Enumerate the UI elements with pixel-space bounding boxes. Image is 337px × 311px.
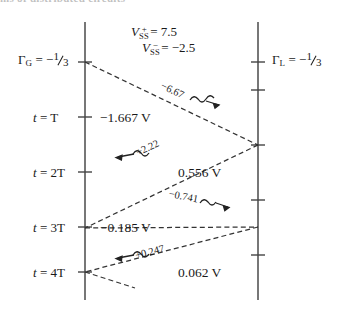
gamma-l-equals: =: [288, 52, 295, 67]
voltage-value-at-3t: −0.185 V: [100, 220, 151, 236]
vss-minus-symbol: V: [142, 40, 150, 55]
time-label-2t-value: 2T: [50, 165, 64, 180]
time-label-t-value: T: [50, 110, 58, 125]
vss-plus-equals: =: [150, 24, 157, 39]
time-label-3t-value: 3T: [50, 220, 64, 235]
wave-arrow-right-3: [200, 200, 229, 211]
voltage-value-at-2t: 0.556 V: [178, 165, 221, 181]
vss-plus-symbol: V: [131, 24, 139, 39]
gamma-g-subscript: G: [26, 58, 33, 68]
wave-segment-5-forward: [85, 272, 135, 288]
wave-segment-2-reverse: [85, 145, 258, 228]
vss-minus-superscript: −: [153, 40, 158, 50]
generator-reflection-coefficient: ΓG = −13: [18, 52, 67, 68]
time-label-t-equals: =: [40, 110, 47, 125]
vss-plus-value: 7.5: [161, 24, 177, 39]
time-label-4t-equals: =: [40, 265, 47, 280]
steady-state-negative: VSS− = −2.5: [142, 40, 195, 57]
time-label-3t-variable: t: [33, 220, 37, 235]
time-label-t-variable: t: [33, 110, 37, 125]
voltage-value-at-t: −1.667 V: [100, 110, 151, 126]
time-label-2t-variable: t: [33, 165, 37, 180]
gamma-l-denominator: 3: [316, 56, 322, 68]
time-label-t: t = T: [33, 110, 58, 126]
time-label-3t: t = 3T: [33, 220, 65, 236]
voltage-value-at-4t: 0.062 V: [178, 265, 221, 281]
vss-minus-value: −2.5: [172, 40, 196, 55]
gamma-l-sign: −: [299, 52, 306, 67]
wave-arrow-right-1: [190, 96, 219, 108]
steady-state-positive: VSS+ = 7.5: [131, 24, 177, 41]
vss-plus-superscript: +: [142, 24, 147, 34]
gamma-g-equals: =: [35, 52, 42, 67]
time-label-3t-equals: =: [40, 220, 47, 235]
gamma-g-symbol: Γ: [18, 52, 26, 67]
gamma-g-numerator: 1: [53, 50, 59, 62]
time-label-2t-equals: =: [40, 165, 47, 180]
time-label-4t-value: 4T: [50, 265, 64, 280]
time-label-4t: t = 4T: [33, 265, 65, 281]
bounce-diagram-figure: ms of distributed circuits: [0, 0, 337, 311]
gamma-g-fraction: 13: [53, 53, 67, 66]
gamma-l-subscript: L: [280, 58, 286, 68]
gamma-g-denominator: 3: [63, 56, 69, 68]
gamma-l-symbol: Γ: [272, 52, 280, 67]
gamma-l-numerator: 1: [306, 50, 312, 62]
vss-minus-equals: =: [161, 40, 168, 55]
load-reflection-coefficient: ΓL = −13: [272, 52, 320, 68]
gamma-g-sign: −: [46, 52, 53, 67]
wave-segment-1-forward: [85, 62, 258, 145]
gamma-l-fraction: 13: [306, 53, 320, 66]
time-label-2t: t = 2T: [33, 165, 65, 181]
time-label-4t-variable: t: [33, 265, 37, 280]
